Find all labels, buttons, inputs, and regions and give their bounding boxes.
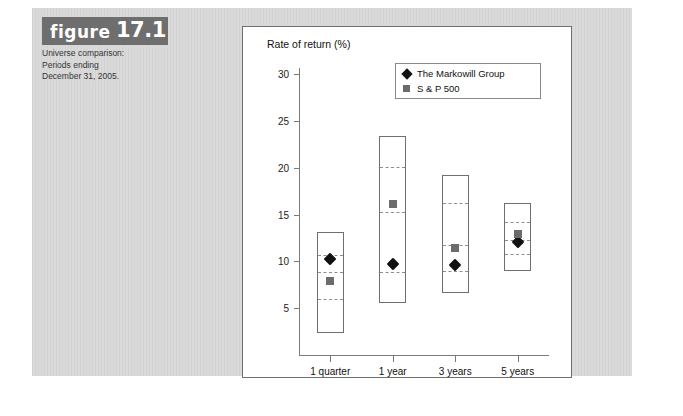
y-tick-label: 10 bbox=[265, 256, 289, 267]
chart-panel: Rate of return (%) The Markowill Group S… bbox=[242, 26, 572, 378]
quartile-line bbox=[505, 254, 530, 255]
quartile-line bbox=[380, 212, 405, 213]
y-tick bbox=[294, 261, 299, 262]
data-point-sp500 bbox=[514, 230, 522, 238]
y-tick bbox=[294, 308, 299, 309]
x-tick bbox=[518, 356, 519, 362]
figure-caption-line-2: Periods ending bbox=[42, 60, 192, 72]
y-tick bbox=[294, 74, 299, 75]
quartile-line bbox=[380, 272, 405, 273]
plot-area: 510152025301 quarter1 year3 years5 years bbox=[299, 65, 549, 355]
quartile-line bbox=[318, 299, 343, 300]
y-tick-label: 5 bbox=[265, 303, 289, 314]
y-axis-line bbox=[299, 68, 300, 355]
y-tick bbox=[294, 121, 299, 122]
quartile-line bbox=[380, 167, 405, 168]
figure-caption-line-1: Universe comparison: bbox=[42, 48, 192, 60]
data-point-sp500 bbox=[326, 277, 334, 285]
figure-tag: figure 17.1 bbox=[42, 17, 168, 45]
x-tick-label: 1 year bbox=[379, 366, 407, 377]
y-tick-label: 30 bbox=[265, 69, 289, 80]
y-tick-label: 25 bbox=[265, 116, 289, 127]
range-box bbox=[442, 175, 469, 293]
y-tick bbox=[294, 168, 299, 169]
x-tick-label: 1 quarter bbox=[310, 366, 350, 377]
y-axis-title: Rate of return (%) bbox=[267, 38, 350, 50]
y-tick-label: 20 bbox=[265, 162, 289, 173]
page-root: figure 17.1 Universe comparison: Periods… bbox=[0, 0, 683, 416]
y-tick-label: 15 bbox=[265, 209, 289, 220]
x-tick-label: 5 years bbox=[501, 366, 534, 377]
figure-caption: Universe comparison: Periods ending Dece… bbox=[42, 48, 192, 83]
x-tick-label: 3 years bbox=[439, 366, 472, 377]
y-tick bbox=[294, 215, 299, 216]
figure-tag-word: figure bbox=[50, 22, 110, 42]
x-tick bbox=[393, 356, 394, 362]
quartile-line bbox=[318, 272, 343, 273]
x-tick bbox=[330, 356, 331, 362]
x-tick bbox=[455, 356, 456, 362]
quartile-line bbox=[505, 222, 530, 223]
range-box bbox=[379, 136, 406, 303]
figure-caption-line-3: December 31, 2005. bbox=[42, 71, 192, 83]
x-axis-line bbox=[299, 355, 549, 356]
figure-tag-number: 17.1 bbox=[116, 18, 166, 42]
data-point-sp500 bbox=[451, 244, 459, 252]
data-point-sp500 bbox=[389, 200, 397, 208]
quartile-line bbox=[443, 203, 468, 204]
